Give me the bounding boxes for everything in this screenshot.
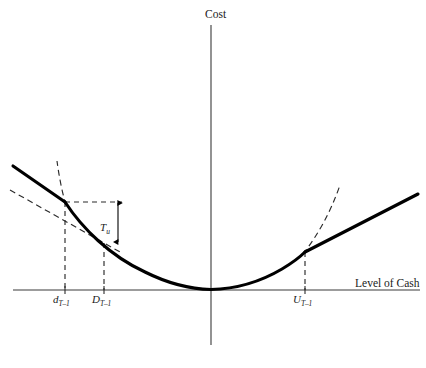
marker-label-d-lower-main: d <box>53 293 59 305</box>
guide-lines-group <box>10 161 340 290</box>
marker-label-d-upper-main: D <box>92 293 100 305</box>
annotation-label-transfer-amount-sub: u <box>106 227 110 236</box>
x-axis-label: Level of Cash <box>355 277 420 289</box>
y-axis-label: Cost <box>205 8 226 20</box>
annotation-label-transfer-amount: Tu <box>100 221 110 233</box>
marker-label-u-level-main: U <box>293 293 301 305</box>
marker-label-d-upper: DT–1 <box>92 293 111 305</box>
marker-label-d-upper-sub: T–1 <box>100 299 111 308</box>
marker-label-u-level: UT–1 <box>293 293 312 305</box>
axes-group <box>13 25 420 345</box>
figure-canvas <box>0 0 426 368</box>
cost-of-cash-figure: Cost Level of Cash dT–1 DT–1 UT–1 Tu <box>0 0 426 368</box>
cost-curve-right-linear <box>305 194 418 252</box>
marker-label-d-lower-sub: T–1 <box>59 299 70 308</box>
marker-label-u-level-sub: T–1 <box>301 299 312 308</box>
cost-curve-group <box>13 166 418 290</box>
marker-label-d-lower: dT–1 <box>53 293 70 305</box>
cost-curve-convex-middle <box>65 202 305 290</box>
